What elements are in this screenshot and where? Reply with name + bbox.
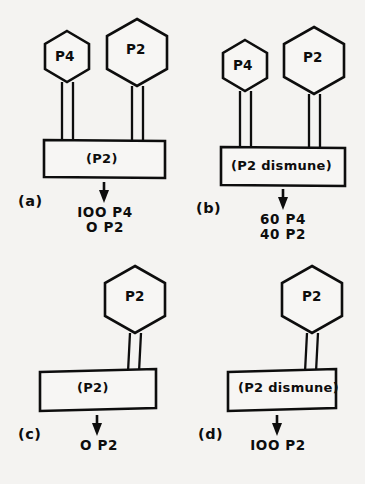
capsid-label-p4-a: P4 <box>55 49 75 64</box>
capsid-label-p2-d: P2 <box>302 289 322 304</box>
capsid-label-p2-c: P2 <box>125 289 145 304</box>
tail-p4-b <box>240 91 251 148</box>
yield-line-b-2: 40 P2 <box>246 227 320 242</box>
tail-p4-a <box>62 82 73 141</box>
capsid-label-p4-b: P4 <box>233 58 253 73</box>
panel-letter-d: (d) <box>198 427 223 443</box>
burst-arrow-head-b <box>278 197 288 210</box>
yield-line-c-1: O P2 <box>62 438 136 453</box>
tail-p2-c <box>128 333 141 372</box>
yield-line-d-1: IOO P2 <box>241 438 315 453</box>
panel-letter-a: (a) <box>18 194 43 210</box>
burst-arrow-head-c <box>92 423 102 436</box>
yield-line-b-1: 60 P4 <box>246 212 320 227</box>
host-cell-label-c: (P2) <box>77 381 109 395</box>
host-cell-label-b: (P2 dismune) <box>231 159 332 173</box>
host-cell-label-d: (P2 dismune) <box>238 381 339 395</box>
tail-p2-d <box>305 333 318 372</box>
burst-arrow-head-d <box>272 423 282 436</box>
yield-block-a: IOO P4 O P2 <box>68 205 142 234</box>
figure-line-art <box>0 0 365 484</box>
panel-letter-c: (c) <box>18 427 41 443</box>
host-cell-label-a: (P2) <box>86 152 118 166</box>
burst-arrow-head-a <box>99 190 109 203</box>
capsid-label-p2-b: P2 <box>303 50 323 65</box>
panel-letter-b: (b) <box>196 201 221 217</box>
tail-p2-a <box>132 86 143 141</box>
capsid-label-p2-a: P2 <box>126 42 146 57</box>
yield-line-a-2: O P2 <box>68 220 142 235</box>
tail-p2-b <box>309 94 320 148</box>
yield-block-b: 60 P4 40 P2 <box>246 212 320 241</box>
yield-block-c: O P2 <box>62 438 136 453</box>
figure-canvas: P4 P2 (P2) (a) IOO P4 O P2 P4 P2 (P2 dis… <box>0 0 365 484</box>
yield-block-d: IOO P2 <box>241 438 315 453</box>
yield-line-a-1: IOO P4 <box>68 205 142 220</box>
